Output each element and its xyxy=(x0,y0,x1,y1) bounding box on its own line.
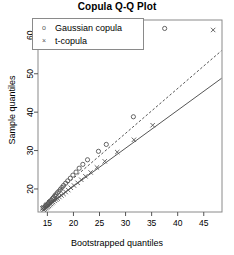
y-tick-label: 30 xyxy=(25,146,35,156)
data-point-circle xyxy=(104,142,108,146)
x-tick-label: 20 xyxy=(69,218,79,228)
legend-label-t-copula: t-copula xyxy=(55,34,87,48)
data-point-circle xyxy=(81,162,85,166)
x-tick-label: 45 xyxy=(199,218,209,228)
data-point-cross xyxy=(72,183,76,187)
data-point-cross xyxy=(63,190,67,194)
y-tick-label: 50 xyxy=(25,69,35,79)
legend-label-gaussian-copula: Gaussian copula xyxy=(55,21,122,35)
data-point-circle xyxy=(96,149,100,153)
data-point-circle xyxy=(85,158,89,162)
x-tick-label: 40 xyxy=(173,218,183,228)
chart-legend: o Gaussian copula × t-copula xyxy=(32,18,144,50)
data-point-cross xyxy=(132,138,136,142)
x-tick-label: 25 xyxy=(95,218,105,228)
data-point-circle xyxy=(163,26,167,30)
data-point-cross xyxy=(115,150,119,154)
circle-marker-icon: o xyxy=(33,21,55,35)
data-point-circle xyxy=(77,166,81,170)
cross-marker-icon: × xyxy=(33,34,55,48)
x-tick-label: 35 xyxy=(147,218,157,228)
x-tick-label: 15 xyxy=(43,218,53,228)
data-point-cross xyxy=(69,186,73,190)
data-point-circle xyxy=(131,115,135,119)
legend-item-gaussian-copula: o Gaussian copula xyxy=(33,21,143,35)
y-tick-label: 20 xyxy=(25,184,35,194)
data-point-cross xyxy=(211,28,215,32)
data-point-circle xyxy=(74,170,78,174)
chart-figure: Copula Q-Q Plot Sample quantiles Bootstr… xyxy=(0,0,234,255)
x-tick-label: 30 xyxy=(121,218,131,228)
y-tick-label: 40 xyxy=(25,107,35,117)
data-point-cross xyxy=(150,123,154,127)
legend-item-t-copula: × t-copula xyxy=(33,34,143,48)
